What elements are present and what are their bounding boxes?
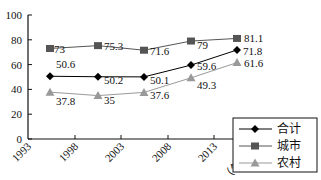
legend: 合计城市农村 [233, 118, 317, 172]
y-tick-label: 80 [11, 34, 23, 46]
data-label: 75.3 [104, 40, 124, 52]
x-axis-ticks: 19931998200320082013（年份） [9, 135, 260, 180]
y-tick-label: 20 [11, 108, 23, 120]
data-label: 49.3 [197, 79, 217, 91]
x-tick-label: 2003 [102, 140, 126, 164]
data-label: 71.8 [243, 45, 263, 57]
data-label: 81.1 [244, 32, 263, 44]
data-label: 37.8 [56, 95, 76, 107]
legend-label: 合计 [277, 121, 301, 136]
y-tick-label: 40 [11, 83, 23, 95]
data-label: 50.1 [150, 74, 169, 86]
series-square: 7375.371.67981.1 [46, 32, 263, 57]
data-label: 61.6 [244, 57, 264, 69]
data-label: 50.2 [104, 74, 123, 86]
data-label: 73 [54, 43, 66, 55]
y-tick-label: 60 [11, 59, 23, 71]
y-tick-label: 100 [6, 9, 23, 21]
legend-label: 城市 [277, 138, 301, 153]
x-tick-label: 1993 [9, 140, 33, 164]
x-tick-label: 1998 [56, 140, 80, 164]
data-label: 71.6 [150, 45, 170, 57]
data-label: 50.6 [56, 58, 76, 70]
data-label: 79 [197, 39, 209, 51]
data-label: 37.6 [150, 89, 170, 101]
series-lines: 50.650.250.159.671.87375.371.67981.137.8… [46, 32, 264, 107]
x-tick-label: 2013 [195, 140, 219, 164]
legend-label: 农村 [277, 156, 301, 170]
data-label: 35 [104, 94, 116, 106]
line-chart: 020406080100 19931998200320082013（年份） 50… [0, 0, 321, 180]
x-tick-label: 2008 [149, 140, 173, 164]
